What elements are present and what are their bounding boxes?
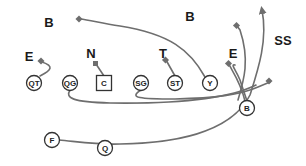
defender-t: T bbox=[159, 46, 167, 61]
player-b: B bbox=[240, 101, 255, 116]
defender-e-left: E bbox=[25, 49, 34, 64]
player-y: Y bbox=[203, 76, 218, 91]
player-label: B bbox=[244, 104, 250, 113]
player-label: SG bbox=[135, 79, 147, 88]
defender-b-left: B bbox=[44, 15, 53, 30]
route-qt-block bbox=[40, 62, 50, 76]
player-qt: QT bbox=[27, 76, 42, 91]
player-label: Q bbox=[102, 144, 108, 153]
player-label: QG bbox=[64, 79, 76, 88]
player-f: F bbox=[45, 133, 60, 148]
block-marker-icon bbox=[75, 15, 82, 22]
player-q: Q bbox=[98, 141, 113, 156]
player-st: ST bbox=[168, 76, 183, 91]
defender-e-right: E bbox=[229, 46, 238, 61]
player-qg: QG bbox=[63, 76, 78, 91]
block-marker-icon bbox=[37, 57, 44, 64]
defender-ss: SS bbox=[274, 33, 292, 48]
player-label: ST bbox=[170, 79, 180, 88]
block-marker-icon bbox=[225, 60, 232, 67]
defender-n: N bbox=[86, 46, 95, 61]
play-diagram: B B E N T E SS QT QG C SG ST Y bbox=[0, 0, 306, 166]
route-cross-up bbox=[237, 26, 245, 100]
defender-b-right: B bbox=[185, 9, 194, 24]
player-label: QT bbox=[28, 79, 39, 88]
route-f-sweep bbox=[59, 10, 264, 144]
block-marker-icon bbox=[93, 61, 98, 66]
player-label: Y bbox=[207, 79, 213, 88]
route-st-block bbox=[166, 60, 175, 76]
player-c: C bbox=[97, 76, 112, 91]
player-sg: SG bbox=[134, 76, 149, 91]
player-label: F bbox=[50, 136, 55, 145]
player-label: C bbox=[101, 79, 107, 88]
